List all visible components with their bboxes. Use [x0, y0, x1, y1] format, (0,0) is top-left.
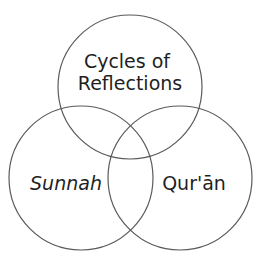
label-quran: Qur'ān	[162, 172, 226, 194]
venn-diagram: Cycles of Reflections Sunnah Qur'ān	[0, 0, 259, 260]
label-sunnah: Sunnah	[30, 172, 102, 194]
label-line-2: Reflections	[78, 72, 182, 94]
label-line-1: Cycles of	[84, 50, 171, 72]
label-cycles-of-reflections: Cycles of Reflections	[78, 50, 182, 94]
